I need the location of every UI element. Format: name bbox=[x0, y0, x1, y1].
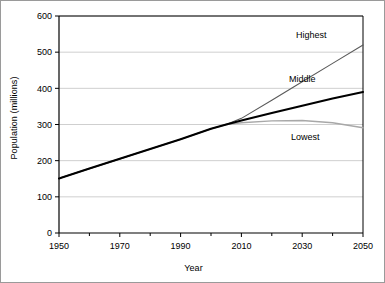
series-label-highest: Highest bbox=[296, 30, 327, 40]
x-axis-tick-labels: 195019701990201020302050 bbox=[49, 241, 373, 251]
series-line-highest bbox=[59, 45, 363, 178]
x-tick-label: 1950 bbox=[49, 241, 69, 251]
x-tick-label: 2030 bbox=[292, 241, 312, 251]
data-series-lines bbox=[59, 45, 363, 178]
chart-figure: 0100200300400500600 19501970199020102030… bbox=[0, 0, 385, 283]
population-projection-line-chart: 0100200300400500600 19501970199020102030… bbox=[1, 1, 385, 283]
y-tick-label: 100 bbox=[37, 192, 52, 202]
x-tick-label: 2050 bbox=[353, 241, 373, 251]
x-tick-label: 1990 bbox=[171, 241, 191, 251]
y-tick-label: 0 bbox=[47, 228, 52, 238]
y-axis-tick-labels: 0100200300400500600 bbox=[37, 11, 52, 238]
x-axis-ticks bbox=[59, 233, 363, 237]
y-tick-label: 500 bbox=[37, 47, 52, 57]
y-tick-label: 400 bbox=[37, 84, 52, 94]
series-label-lowest: Lowest bbox=[291, 132, 320, 142]
x-axis-title: Year bbox=[1, 263, 385, 273]
y-tick-label: 300 bbox=[37, 120, 52, 130]
y-tick-label: 200 bbox=[37, 156, 52, 166]
x-tick-label: 2010 bbox=[231, 241, 251, 251]
y-tick-label: 600 bbox=[37, 11, 52, 21]
grid-lines bbox=[59, 16, 363, 197]
y-axis-title: Population (millions) bbox=[9, 58, 19, 178]
series-label-middle: Middle bbox=[289, 74, 316, 84]
x-tick-label: 1970 bbox=[110, 241, 130, 251]
